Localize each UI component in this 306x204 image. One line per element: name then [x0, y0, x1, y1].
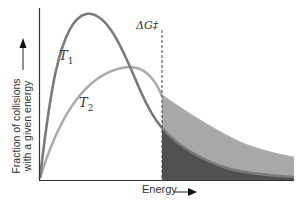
x-axis-label: Energy — [142, 183, 177, 195]
t2-label-main: T — [79, 95, 88, 110]
t1-label: T1 — [59, 48, 73, 66]
y-axis-label-line2: with a given energy — [22, 78, 33, 173]
t2-label-sub: 2 — [88, 103, 94, 113]
x-arrow-head-icon — [188, 188, 197, 196]
y-axis-label: Fraction of collisions with a given ener… — [2, 0, 42, 180]
t2-label: T2 — [79, 95, 93, 113]
t1-label-main: T — [59, 48, 68, 63]
t1-label-sub: 1 — [68, 56, 74, 66]
threshold-label: ΔG‡ — [136, 19, 158, 32]
